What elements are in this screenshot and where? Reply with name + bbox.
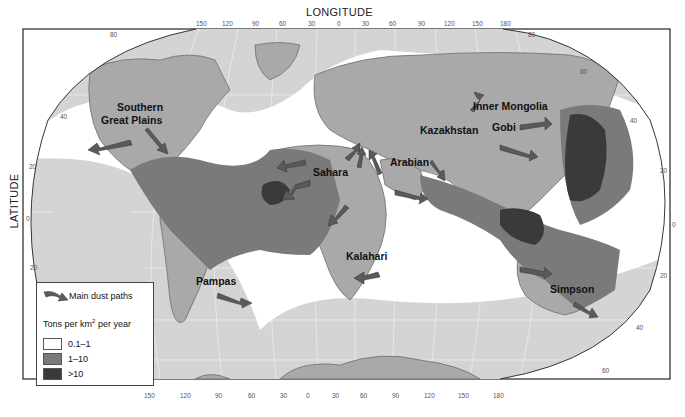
svg-text:90: 90 [252,20,260,27]
svg-text:180: 180 [493,392,504,399]
label-great-plains: Great Plains [101,114,162,126]
svg-text:60: 60 [602,367,610,374]
svg-text:120: 120 [444,20,455,27]
svg-text:180: 180 [500,20,511,27]
svg-text:60: 60 [248,392,256,399]
svg-text:0: 0 [306,392,310,399]
svg-text:60: 60 [580,68,588,75]
svg-text:30: 30 [308,20,316,27]
bottom-longitude-ticks: 150 120 90 60 30 0 30 60 90 120 150 180 [144,392,504,399]
label-kalahari: Kalahari [346,250,388,262]
swatch-mid [43,353,62,365]
svg-text:90: 90 [418,20,426,27]
svg-text:0: 0 [337,20,341,27]
svg-text:120: 120 [180,392,191,399]
svg-text:20: 20 [660,272,668,279]
svg-text:60: 60 [389,20,397,27]
svg-text:150: 150 [144,392,155,399]
svg-text:90: 90 [215,392,223,399]
svg-text:120: 120 [222,20,233,27]
svg-text:30: 30 [280,392,288,399]
svg-text:80: 80 [528,31,536,38]
svg-text:0: 0 [26,215,30,222]
swatch-high [43,368,62,380]
legend-class-high: >10 [43,368,83,380]
svg-text:60: 60 [279,20,287,27]
legend-class-low: 0.1–1 [43,338,91,350]
top-longitude-ticks: 150 120 90 60 30 0 30 60 90 120 150 180 [196,20,511,27]
svg-text:20: 20 [660,167,668,174]
svg-text:150: 150 [196,20,207,27]
svg-text:20: 20 [29,163,37,170]
legend-units: Tons per km2 per year [43,318,131,329]
legend-class-mid: 1–10 [43,353,88,365]
svg-text:40: 40 [636,324,644,331]
svg-text:0: 0 [672,221,676,228]
svg-text:60: 60 [360,392,368,399]
dust-arrow-icon [43,289,69,303]
map-legend: Main dust paths Tons per km2 per year 0.… [36,282,154,386]
svg-text:30: 30 [362,20,370,27]
legend-dust-paths: Main dust paths [43,289,133,303]
label-southern: Southern [117,101,163,113]
label-gobi: Gobi [492,121,516,133]
svg-text:150: 150 [458,392,469,399]
svg-text:40: 40 [630,117,638,124]
svg-text:120: 120 [424,392,435,399]
label-inner-mongolia: Inner Mongolia [473,100,548,112]
svg-text:40: 40 [60,113,68,120]
svg-text:150: 150 [472,20,483,27]
legend-paths-label: Main dust paths [69,291,133,301]
label-kazakhstan: Kazakhstan [420,124,478,136]
svg-text:80: 80 [110,31,118,38]
label-pampas: Pampas [196,275,236,287]
svg-text:20: 20 [30,264,38,271]
label-sahara: Sahara [313,166,348,178]
svg-text:90: 90 [392,392,400,399]
label-arabian: Arabian [390,156,429,168]
label-simpson: Simpson [550,283,594,295]
svg-text:30: 30 [332,392,340,399]
swatch-low [43,338,62,350]
